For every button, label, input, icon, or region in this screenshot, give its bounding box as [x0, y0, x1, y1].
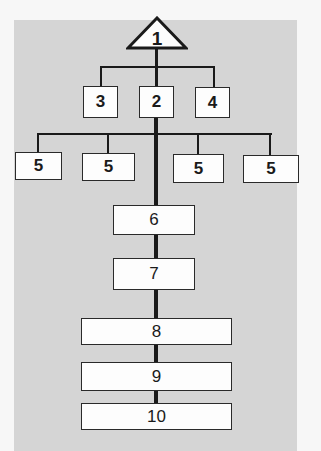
branch-to-5d	[269, 133, 271, 155]
branch-to-4	[213, 66, 215, 87]
node-5d: 5	[243, 155, 299, 183]
branch-to-5a	[37, 133, 39, 152]
node-5a: 5	[15, 152, 62, 180]
diagram-canvas: 1 3 2 4 5 5 5 5 6 7 8 9 10	[0, 0, 321, 451]
node-3: 3	[83, 86, 118, 118]
node-10: 10	[81, 403, 232, 430]
node-5b: 5	[82, 153, 135, 181]
node-2: 2	[139, 86, 174, 118]
node-7: 7	[113, 258, 195, 290]
node-5c: 5	[173, 154, 224, 183]
branch-bar-level3	[37, 133, 272, 135]
branch-to-3	[100, 66, 102, 86]
root-node-label: 1	[126, 29, 188, 49]
root-node-triangle: 1	[126, 16, 188, 50]
branch-bar-level2	[100, 66, 215, 68]
branch-to-5c	[197, 133, 199, 154]
node-8: 8	[81, 318, 232, 345]
node-6: 6	[113, 205, 195, 235]
node-4: 4	[195, 87, 230, 118]
node-9: 9	[81, 362, 232, 391]
branch-to-5b	[107, 133, 109, 153]
